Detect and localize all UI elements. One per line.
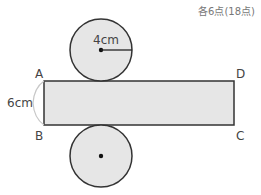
vertex-d: D <box>236 67 245 81</box>
cylinder-net-diagram: 4cm 6cm A D B C <box>0 0 261 195</box>
radius-label: 4cm <box>93 33 119 47</box>
vertex-a: A <box>35 67 44 81</box>
vertex-c: C <box>236 129 244 143</box>
lateral-rectangle <box>44 81 234 125</box>
bottom-circle-center <box>99 154 103 158</box>
height-label: 6cm <box>7 96 33 110</box>
height-brace <box>33 81 44 125</box>
vertex-b: B <box>35 129 43 143</box>
